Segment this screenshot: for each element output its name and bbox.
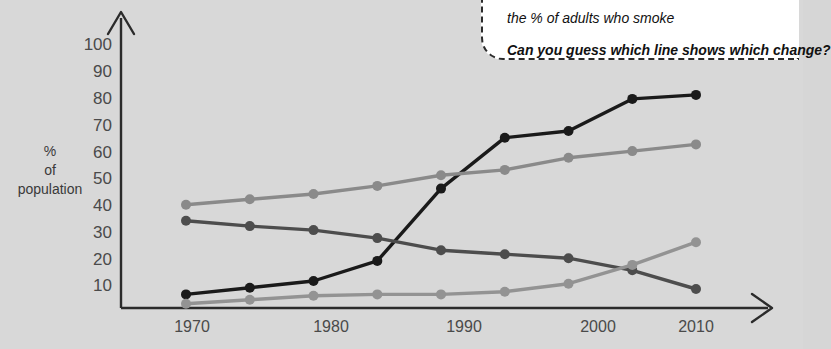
data-point-line-c-dark-gray-1990 — [436, 245, 446, 255]
speech-bubble-line-2: Can you guess which line shows which cha… — [507, 42, 831, 58]
data-point-line-c-dark-gray-1995 — [500, 249, 510, 259]
data-point-line-a-black-2010 — [691, 90, 701, 100]
x-tick-label-1990: 1990 — [429, 318, 499, 336]
data-point-line-a-black-2000 — [564, 126, 574, 136]
data-point-line-d-light-gray-1980 — [309, 291, 319, 301]
data-point-line-b-medium-gray-2000 — [564, 153, 574, 163]
x-tick-label-2010: 2010 — [661, 318, 731, 336]
data-point-line-d-light-gray-2000 — [564, 279, 574, 289]
data-point-line-b-medium-gray-1995 — [500, 165, 510, 175]
speech-bubble-line-1: the % of adults who smoke — [507, 10, 674, 26]
data-point-line-d-light-gray-1970 — [181, 299, 191, 309]
y-tick-label-40: 40 — [70, 196, 112, 216]
data-point-line-c-dark-gray-1970 — [181, 216, 191, 226]
y-tick-label-10: 10 — [70, 276, 112, 296]
data-point-line-c-dark-gray-2010 — [691, 284, 701, 294]
data-point-line-a-black-1995 — [500, 133, 510, 143]
y-tick-label-20: 20 — [70, 250, 112, 270]
data-point-line-d-light-gray-2010 — [691, 237, 701, 247]
y-tick-label-90: 90 — [70, 62, 112, 82]
y-tick-label-50: 50 — [70, 169, 112, 189]
data-point-line-d-light-gray-1990 — [436, 289, 446, 299]
data-point-line-b-medium-gray-1970 — [181, 200, 191, 210]
data-point-line-d-light-gray-1995 — [500, 287, 510, 297]
x-tick-label-2000: 2000 — [563, 318, 633, 336]
data-point-line-b-medium-gray-1980 — [309, 189, 319, 199]
data-point-line-a-black-1975 — [245, 283, 255, 293]
data-point-line-c-dark-gray-1985 — [372, 233, 382, 243]
data-point-line-b-medium-gray-2005 — [627, 146, 637, 156]
data-point-line-a-black-1980 — [309, 276, 319, 286]
data-point-line-c-dark-gray-1980 — [309, 225, 319, 235]
data-point-line-d-light-gray-2005 — [627, 260, 637, 270]
data-point-line-b-medium-gray-1990 — [436, 170, 446, 180]
y-tick-label-80: 80 — [70, 89, 112, 109]
x-tick-label-1980: 1980 — [296, 318, 366, 336]
data-point-line-d-light-gray-1985 — [372, 289, 382, 299]
x-tick-label-1970: 1970 — [157, 318, 227, 336]
data-point-line-d-light-gray-1975 — [245, 295, 255, 305]
data-point-line-c-dark-gray-2000 — [564, 253, 574, 263]
data-point-line-b-medium-gray-2010 — [691, 139, 701, 149]
y-tick-label-60: 60 — [70, 143, 112, 163]
y-tick-label-70: 70 — [70, 116, 112, 136]
data-point-line-b-medium-gray-1975 — [245, 194, 255, 204]
speech-bubble-content: the % of adults who smoke Can you guess … — [481, 0, 803, 62]
data-point-line-b-medium-gray-1985 — [372, 181, 382, 191]
data-point-line-a-black-1985 — [372, 256, 382, 266]
data-point-line-a-black-2005 — [627, 94, 637, 104]
data-point-line-a-black-1990 — [436, 184, 446, 194]
data-point-line-c-dark-gray-1975 — [245, 221, 255, 231]
y-tick-label-100: 100 — [70, 35, 112, 55]
data-point-line-a-black-1970 — [181, 289, 191, 299]
y-tick-label-30: 30 — [70, 223, 112, 243]
